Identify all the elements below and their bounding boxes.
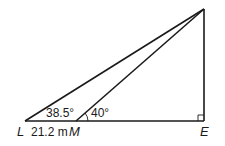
- angle-L-label: 38.5°: [46, 106, 74, 120]
- line-L-apex: [25, 9, 204, 121]
- triangle-diagram: 38.5° 40° L M E 21.2 m: [0, 0, 225, 146]
- angle-arc-M: [85, 113, 88, 121]
- point-L-label: L: [17, 124, 24, 139]
- point-M-label: M: [69, 124, 80, 139]
- segment-LM-length: 21.2 m: [31, 125, 68, 139]
- point-E-label: E: [200, 124, 209, 139]
- angle-M-label: 40°: [91, 106, 109, 120]
- right-angle-marker: [198, 115, 204, 121]
- line-M-apex: [76, 9, 204, 121]
